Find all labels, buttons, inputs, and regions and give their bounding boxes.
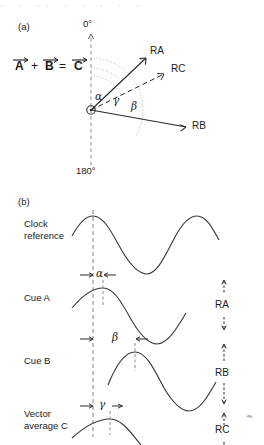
angle-label-gamma: γ xyxy=(113,95,119,107)
stray-mark xyxy=(246,415,253,418)
row-label-clock-reference-line1: Clock xyxy=(24,218,48,230)
row-label-cue-b: Cue B xyxy=(24,355,50,367)
row-label-clock-reference-line2: reference xyxy=(24,230,64,242)
angle-arc-alpha xyxy=(91,68,118,78)
vector-label-rb: RB xyxy=(192,120,206,131)
axis-label-onesixty: 180° xyxy=(76,166,96,177)
vector-rb xyxy=(91,110,186,131)
amplitude-label-rb: RB xyxy=(215,367,229,378)
waveform-vector-average-c xyxy=(72,419,141,445)
angle-label-alpha: α xyxy=(95,91,102,103)
angle-label-beta: β xyxy=(131,101,137,113)
phase-label-gamma: γ xyxy=(99,399,105,411)
waveform-cue-a xyxy=(72,288,186,344)
row-label-cue-a: Cue A xyxy=(24,292,50,304)
row-label-vector-average-line1: Vector xyxy=(24,408,51,420)
phase-label-beta: β xyxy=(112,332,118,344)
vector-label-rc: RC xyxy=(171,63,185,74)
zero-axis-line xyxy=(88,34,93,165)
amplitude-label-rc: RC xyxy=(215,424,229,435)
waveform-cue-b xyxy=(108,352,216,411)
phase-label-alpha: α xyxy=(96,268,103,280)
waveform-clock-reference xyxy=(72,216,219,274)
axis-label-zero: 0° xyxy=(83,19,92,30)
amplitude-label-ra: RA xyxy=(215,299,229,310)
panel-a-diagram xyxy=(0,0,264,190)
vector-label-ra: RA xyxy=(150,45,164,56)
row-label-vector-average-line2: average C xyxy=(24,420,68,432)
